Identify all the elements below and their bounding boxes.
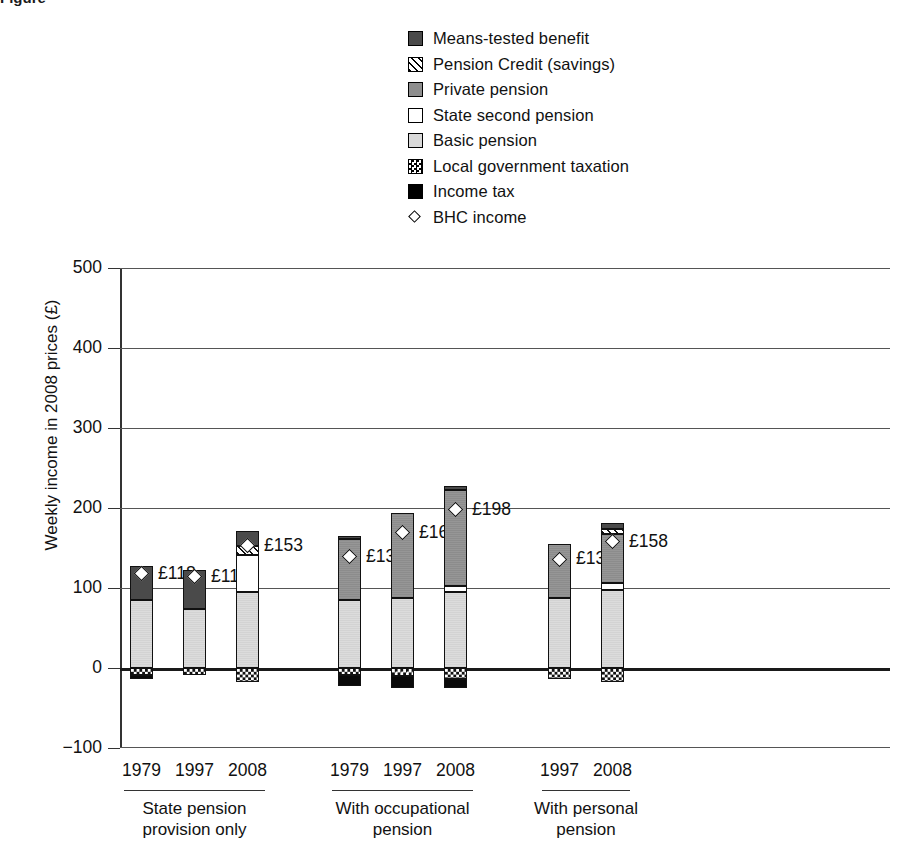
bar-segment-means xyxy=(444,486,467,490)
group-rule xyxy=(124,790,265,791)
bar-segment-basic xyxy=(444,592,467,668)
group-label-2: With personalpension xyxy=(488,798,684,840)
bar-segment-basic xyxy=(130,600,153,668)
white-square-icon xyxy=(408,108,423,123)
y-tick-label: 200 xyxy=(32,497,102,518)
diamond-marker-icon xyxy=(408,210,423,225)
x-tick-label-1997: 1997 xyxy=(165,760,225,781)
dark-grey-square-icon xyxy=(408,31,423,46)
legend-item-label: BHC income xyxy=(433,208,527,227)
bar-segment-income_tax xyxy=(391,676,414,688)
x-tick-label-1997: 1997 xyxy=(530,760,590,781)
y-tick--100 xyxy=(108,748,120,749)
grey-square-icon xyxy=(408,82,423,97)
bar-segment-local_tax xyxy=(444,668,467,679)
y-tick-label: 0 xyxy=(32,657,102,678)
plot-area: −1000100200300400500£1181979£1141997£153… xyxy=(120,268,890,748)
x-tick-label-2008: 2008 xyxy=(426,760,486,781)
bar-segment-basic xyxy=(338,600,361,668)
bar-segment-local_tax xyxy=(601,668,624,682)
legend-item-label: Means-tested benefit xyxy=(433,29,589,48)
legend-item-label: Private pension xyxy=(433,80,548,99)
y-tick-400 xyxy=(108,348,120,349)
y-tick-label: 400 xyxy=(32,337,102,358)
legend-item-label: Income tax xyxy=(433,182,515,201)
bar-state-pension-provision-only-2008[interactable] xyxy=(236,268,259,748)
bar-segment-basic xyxy=(183,609,206,668)
bar-segment-local_tax xyxy=(183,668,206,675)
bar-with-personal-pension-2008[interactable] xyxy=(601,268,624,748)
figure-root: Figure Means-tested benefitPension Credi… xyxy=(0,0,906,853)
bar-segment-s2p xyxy=(236,555,259,592)
y-tick-300 xyxy=(108,428,120,429)
bar-state-pension-provision-only-1997[interactable] xyxy=(183,268,206,748)
y-tick-label: 300 xyxy=(32,417,102,438)
bar-segment-basic xyxy=(236,592,259,668)
group-rule xyxy=(542,790,630,791)
bar-segment-income_tax xyxy=(338,675,361,686)
x-tick-label-1979: 1979 xyxy=(112,760,172,781)
y-tick-500 xyxy=(108,268,120,269)
bar-segment-s2p xyxy=(601,583,624,590)
legend-item-s2p: State second pension xyxy=(408,103,738,129)
bar-state-pension-provision-only-1979[interactable] xyxy=(130,268,153,748)
bar-segment-local_tax xyxy=(548,668,571,679)
y-tick-label: 100 xyxy=(32,577,102,598)
y-tick-label: 500 xyxy=(32,257,102,278)
bar-segment-local_tax xyxy=(338,668,361,675)
legend-item-bhc: BHC income xyxy=(408,205,738,231)
bar-with-occupational-pension-1979[interactable] xyxy=(338,268,361,748)
bar-segment-means xyxy=(338,536,361,539)
figure-caption: Figure xyxy=(0,0,300,14)
x-tick-label-1979: 1979 xyxy=(320,760,380,781)
bar-segment-basic xyxy=(548,598,571,668)
legend-item-means: Means-tested benefit xyxy=(408,26,738,52)
light-grey-square-icon xyxy=(408,133,423,148)
bhc-value-label: £153 xyxy=(264,535,303,556)
bhc-value-label: £198 xyxy=(472,499,511,520)
chart-legend: Means-tested benefitPension Credit (savi… xyxy=(408,26,738,230)
bar-with-occupational-pension-1997[interactable] xyxy=(391,268,414,748)
legend-item-local_tax: Local government taxation xyxy=(408,154,738,180)
x-tick-label-1997: 1997 xyxy=(373,760,433,781)
bar-segment-means xyxy=(601,523,624,529)
bar-segment-local_tax xyxy=(236,668,259,682)
bar-segment-s2p xyxy=(444,586,467,592)
bar-segment-basic xyxy=(391,598,414,668)
legend-item-pension_credit: Pension Credit (savings) xyxy=(408,52,738,78)
bar-segment-local_tax xyxy=(391,668,414,676)
group-label-line1: With personal xyxy=(488,798,684,819)
legend-item-label: State second pension xyxy=(433,106,594,125)
legend-item-income_tax: Income tax xyxy=(408,179,738,205)
bar-segment-income_tax xyxy=(444,679,467,688)
legend-item-label: Pension Credit (savings) xyxy=(433,55,615,74)
legend-item-basic: Basic pension xyxy=(408,128,738,154)
y-tick-200 xyxy=(108,508,120,509)
black-square-icon xyxy=(408,184,423,199)
checkered-square-icon xyxy=(408,159,423,174)
bar-segment-basic xyxy=(601,590,624,668)
legend-item-label: Local government taxation xyxy=(433,157,629,176)
y-tick-label: −100 xyxy=(32,737,102,758)
bar-segment-local_tax xyxy=(130,668,153,675)
x-tick-label-2008: 2008 xyxy=(583,760,643,781)
bhc-value-label: £158 xyxy=(629,531,668,552)
y-tick-0 xyxy=(108,668,120,669)
legend-item-label: Basic pension xyxy=(433,131,537,150)
legend-item-private: Private pension xyxy=(408,77,738,103)
group-label-line2: pension xyxy=(488,819,684,840)
group-rule xyxy=(332,790,473,791)
y-tick-100 xyxy=(108,588,120,589)
x-tick-label-2008: 2008 xyxy=(218,760,278,781)
bar-segment-income_tax xyxy=(130,675,153,679)
hatched-square-icon xyxy=(408,57,423,72)
bar-with-personal-pension-1997[interactable] xyxy=(548,268,571,748)
